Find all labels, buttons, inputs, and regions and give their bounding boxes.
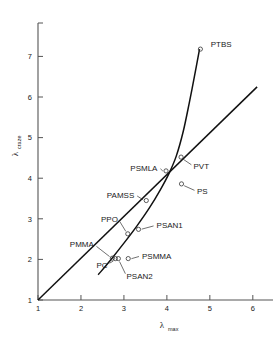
- data-label-ptbs: PTBS: [211, 40, 232, 49]
- x-axis-title-subscript: max: [168, 326, 179, 332]
- data-label-ps: PS: [197, 187, 208, 196]
- leader-line-pmma: [96, 246, 109, 256]
- leader-line-psan1: [142, 226, 154, 229]
- x-tick-label-4: 4: [165, 304, 169, 313]
- data-point-psmla[interactable]: [164, 169, 168, 173]
- data-point-psan1[interactable]: [136, 227, 140, 231]
- y-axis-title-symbol: λ: [10, 151, 20, 156]
- upturn-curve: [98, 49, 199, 275]
- x-tick-label-5: 5: [208, 304, 212, 313]
- data-label-psmla: PSMLA: [130, 164, 158, 173]
- x-tick-label-2: 2: [79, 304, 83, 313]
- data-point-psan2[interactable]: [116, 256, 120, 260]
- x-tick-label-1: 1: [36, 304, 40, 313]
- leader-line-psmla: [160, 169, 162, 171]
- data-point-psmma[interactable]: [126, 256, 130, 260]
- chart-svg: 1234567123456 PTBSPVTPSPSMLAPAMSSPSAN1PP…: [0, 0, 275, 347]
- y-axis-title: λcraze: [10, 136, 22, 157]
- data-point-pamss[interactable]: [144, 198, 148, 202]
- y-tick-label-1: 1: [28, 296, 32, 305]
- y-tick-label-5: 5: [28, 133, 32, 142]
- y-tick-label-3: 3: [28, 215, 32, 224]
- data-label-pamss: PAMSS: [107, 191, 134, 200]
- data-point-pvt[interactable]: [179, 155, 183, 159]
- data-label-psan1: PSAN1: [157, 221, 184, 230]
- x-tick-label-6: 6: [251, 304, 255, 313]
- diagonal-line: [38, 87, 257, 300]
- leader-line-psmma: [131, 257, 139, 259]
- leader-line-ps: [184, 186, 194, 191]
- leader-line-psan2: [120, 262, 126, 274]
- y-tick-label-7: 7: [28, 52, 32, 61]
- y-tick-label-2: 2: [28, 255, 32, 264]
- data-label-psmma: PSMMA: [142, 252, 172, 261]
- data-point-ps[interactable]: [179, 182, 183, 186]
- x-axis-title: λmax: [160, 320, 179, 332]
- data-label-pmma: PMMA: [70, 240, 95, 249]
- y-tick-label-6: 6: [28, 93, 32, 102]
- x-axis-title-symbol: λ: [160, 320, 165, 330]
- data-label-pvt: PVT: [194, 162, 210, 171]
- data-label-psan2: PSAN2: [127, 272, 154, 281]
- figure-container: 1234567123456 PTBSPVTPSPSMLAPAMSSPSAN1PP…: [0, 0, 275, 347]
- data-label-ppo: PPO: [101, 215, 118, 224]
- data-point-ppo[interactable]: [126, 232, 130, 236]
- x-tick-label-3: 3: [122, 304, 126, 313]
- y-tick-label-4: 4: [28, 174, 32, 183]
- y-axis-title-subscript: craze: [16, 136, 22, 149]
- leader-line-ppo: [120, 222, 126, 232]
- leader-line-pvt: [183, 159, 191, 164]
- curves-group: [38, 49, 257, 300]
- data-label-pc: PC: [96, 261, 107, 270]
